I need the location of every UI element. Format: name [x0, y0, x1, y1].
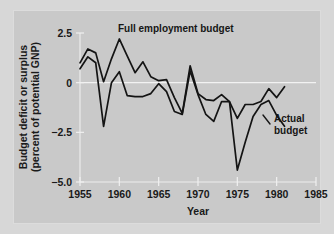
y-axis-title-line1: Budget deficit or surplus [17, 45, 29, 169]
x-tick-label-1970: 1970 [186, 188, 210, 200]
y-tick-label-2: −2.5 [51, 126, 72, 138]
series-line-full-employment-budget [80, 39, 285, 118]
x-tick-label-1955: 1955 [68, 188, 92, 200]
figure-container: 2.5 0 −2.5 −5.0 1955 1960 1965 1970 1975… [0, 0, 334, 234]
y-axis-title-line2: (percent of potential GNP) [29, 42, 41, 172]
x-tick-label-1960: 1960 [108, 188, 132, 200]
y-tick-label-0: 2.5 [57, 27, 72, 39]
actual-budget-leader-line [263, 115, 270, 124]
x-tick-label-1975: 1975 [226, 188, 250, 200]
x-axis-title: Year [187, 205, 209, 217]
annotation-actual-budget-line2: budget [274, 125, 308, 136]
budget-deficit-line-chart: 2.5 0 −2.5 −5.0 1955 1960 1965 1970 1975… [0, 0, 334, 234]
y-tick-label-3: −5.0 [51, 176, 72, 188]
annotation-actual-budget-line1: Actual [274, 113, 305, 124]
series-line-actual-budget [80, 57, 285, 170]
annotation-full-employment-budget: Full employment budget [118, 23, 234, 34]
x-tick-label-1980: 1980 [265, 188, 289, 200]
x-tick-label-1985: 1985 [304, 188, 328, 200]
x-tick-label-1965: 1965 [147, 188, 171, 200]
y-tick-label-1: 0 [66, 77, 72, 89]
